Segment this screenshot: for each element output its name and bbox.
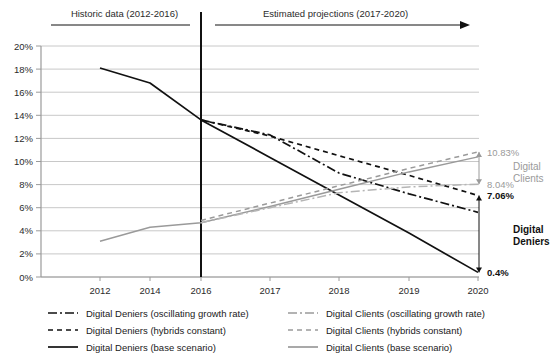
- deniers-high-value-label: 7.06%: [487, 190, 514, 201]
- legend-label-clients-hybrids: Digital Clients (hybrids constant): [326, 325, 462, 336]
- y-axis-tick-label: 4%: [19, 225, 33, 236]
- clients-range-arrow: [476, 152, 482, 184]
- y-axis-tick-label: 2%: [19, 248, 33, 259]
- y-axis-tick-label: 10%: [14, 156, 34, 167]
- historic-period-label: Historic data (2012-2016): [71, 8, 178, 19]
- data-series-group: [100, 68, 478, 272]
- legend-item[interactable]: Digital Clients (hybrids constant): [288, 325, 462, 336]
- x-axis-tick-label: 2019: [398, 285, 419, 296]
- clients-range-arrow-head-bottom: [476, 179, 482, 184]
- legend-group: Digital Deniers (oscillating growth rate…: [48, 308, 485, 353]
- clients-low-value-label: 8.04%: [487, 179, 514, 190]
- legend-label-deniers-osc: Digital Deniers (oscillating growth rate…: [86, 308, 249, 319]
- y-axis-tick-label: 12%: [14, 133, 34, 144]
- legend-label-deniers-base: Digital Deniers (base scenario): [86, 342, 216, 353]
- legend-item[interactable]: Digital Deniers (hybrids constant): [48, 325, 226, 336]
- header-group: Historic data (2012-2016)Estimated proje…: [51, 8, 470, 29]
- line-chart-canvas: 0%2%4%6%8%10%12%14%16%18%20%201220142016…: [0, 0, 560, 358]
- y-axis-tick-label: 14%: [14, 110, 34, 121]
- clients-high-value-label: 10.83%: [487, 147, 520, 158]
- clients-group-label-line2: Clients: [513, 173, 544, 184]
- x-axis-tick-label: 2020: [467, 285, 488, 296]
- deniers-range-arrow: [476, 195, 482, 272]
- annotations-group: 10.83%8.04%7.06%0.4%DigitalClientsDigita…: [476, 147, 550, 278]
- deniers-group-label-line1: Digital: [513, 224, 544, 235]
- legend-item[interactable]: Digital Clients (oscillating growth rate…: [288, 308, 485, 319]
- clients-range-arrow-head-top: [476, 152, 482, 157]
- y-axis-tick-label: 0%: [19, 272, 33, 283]
- y-axis-tick-label: 6%: [19, 202, 33, 213]
- legend-item[interactable]: Digital Deniers (oscillating growth rate…: [48, 308, 249, 319]
- legend-label-clients-base: Digital Clients (base scenario): [326, 342, 452, 353]
- chart-figure: 0%2%4%6%8%10%12%14%16%18%20%201220142016…: [0, 0, 560, 358]
- legend-label-clients-osc: Digital Clients (oscillating growth rate…: [326, 308, 485, 319]
- x-axis-tick-label: 2016: [190, 285, 211, 296]
- gridlines-group: [41, 46, 479, 277]
- deniers-range-arrow-head-top: [476, 195, 482, 200]
- x-axis-tick-label: 2014: [139, 285, 160, 296]
- deniers-group-label-line2: Deniers: [513, 236, 550, 247]
- y-axis-tick-label: 8%: [19, 179, 33, 190]
- projection-period-label: Estimated projections (2017-2020): [263, 8, 408, 19]
- y-axis-tick-label: 20%: [14, 41, 34, 52]
- y-axis-tick-label: 18%: [14, 64, 34, 75]
- legend-item[interactable]: Digital Deniers (base scenario): [48, 342, 216, 353]
- x-axis-tick-label: 2018: [328, 285, 349, 296]
- x-axis-tick-label: 2012: [89, 285, 110, 296]
- projection-arrow-head: [460, 21, 470, 29]
- clients-group-label-line1: Digital: [513, 161, 541, 172]
- x-axis-tick-label: 2017: [259, 285, 280, 296]
- deniers-low-value-label: 0.4%: [487, 267, 509, 278]
- legend-item[interactable]: Digital Clients (base scenario): [288, 342, 452, 353]
- series-line-clients_osc: [201, 184, 478, 223]
- series-line-deniers_base: [100, 68, 478, 272]
- y-axis-tick-label: 16%: [14, 87, 34, 98]
- legend-label-deniers-hybrids: Digital Deniers (hybrids constant): [86, 325, 226, 336]
